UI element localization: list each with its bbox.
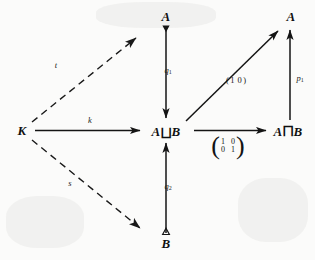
node-B-bottom-label: B [162, 236, 171, 251]
arrow-label-q2: q2 [164, 182, 171, 191]
arrow-label-q1: q1 [164, 66, 171, 75]
arrow-s-dashed [32, 140, 140, 228]
diagram-canvas: K A A⨆B B A⨅B A t k s q1 q2 p1 (10) ( [0, 0, 315, 260]
row-matrix-cell-0: 1 [229, 75, 236, 85]
node-A-top: A [162, 10, 171, 23]
arrow-label-p1-subscript: 1 [301, 77, 304, 83]
matrix-cell-r1c0: 0 [221, 146, 225, 154]
node-A-right-label: A [287, 9, 296, 24]
arrow-label-s: s [68, 179, 71, 188]
identity-matrix-label: ( 1 0 0 1 ) [211, 135, 244, 157]
node-A-right: A [287, 10, 296, 23]
row-matrix-label: (10) [226, 75, 246, 85]
matrix-cell-r1c1: 1 [231, 146, 235, 154]
arrow-label-k-text: k [88, 115, 92, 125]
arrow-label-t: t [55, 61, 57, 70]
node-B-bottom: B [162, 237, 171, 250]
arrow-label-q2-subscript: 2 [169, 185, 172, 191]
product-left-operand: A [274, 124, 283, 139]
matrix-open-paren: ( [211, 135, 220, 157]
product-operator-icon: ⨅ [282, 124, 293, 139]
node-A-coproduct-B: A⨆B [152, 125, 181, 138]
coproduct-right-operand: B [172, 124, 181, 139]
arrow-label-t-text: t [55, 60, 57, 70]
node-A-top-label: A [162, 9, 171, 24]
node-K: K [18, 124, 27, 137]
arrow-label-k: k [88, 116, 92, 125]
product-right-operand: B [294, 124, 303, 139]
coproduct-operator-icon: ⨆ [160, 124, 171, 139]
row-matrix-close-paren: ) [243, 75, 246, 85]
node-K-label: K [18, 123, 27, 138]
arrow-label-q1-subscript: 1 [169, 69, 172, 75]
matrix-close-paren: ) [236, 135, 245, 157]
matrix-grid: 1 0 0 1 [220, 138, 236, 155]
node-A-product-B: A⨅B [274, 125, 303, 138]
arrow-label-p1: p1 [296, 74, 303, 83]
arrow-t-dashed [32, 38, 136, 122]
arrow-label-s-text: s [68, 178, 71, 188]
coproduct-left-operand: A [152, 124, 161, 139]
